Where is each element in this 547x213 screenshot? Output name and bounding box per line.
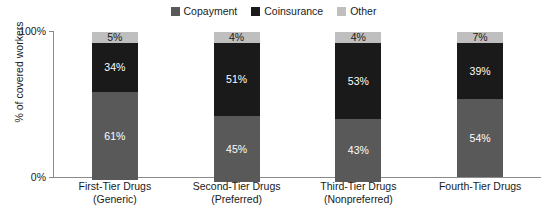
bar-segment-coinsurance[interactable]: 53%	[335, 43, 381, 120]
stacked-bar-chart: Copayment Coinsurance Other 100% 0% % of…	[0, 0, 547, 213]
bar-segment-label: 51%	[226, 74, 247, 85]
legend-swatch-copayment	[171, 7, 180, 16]
stacked-bar: 4% 51% 45%	[214, 32, 260, 177]
bar-segment-copayment[interactable]: 45%	[214, 116, 260, 181]
bar-segment-coinsurance[interactable]: 39%	[457, 43, 503, 100]
bar-segment-label: 7%	[473, 32, 488, 43]
category-name: First-Tier Drugs	[79, 180, 152, 192]
bar-segment-label: 39%	[470, 66, 491, 77]
bar-segment-label: 54%	[470, 133, 491, 144]
bar-segment-label: 53%	[348, 76, 369, 87]
y-axis-tick-bottom	[49, 177, 54, 178]
bar-segment-label: 5%	[107, 32, 122, 43]
stacked-bar: 5% 34% 61%	[92, 32, 138, 177]
legend-item-other: Other	[337, 6, 376, 17]
bar-segment-copayment[interactable]: 54%	[457, 99, 503, 177]
bar-segment-other[interactable]: 7%	[457, 32, 503, 43]
bar-segment-label: 34%	[104, 62, 125, 73]
category-name: Third-Tier Drugs	[320, 180, 396, 192]
x-axis-category-labels: First-Tier Drugs (Generic) Second-Tier D…	[54, 180, 541, 213]
bar-segment-copayment[interactable]: 43%	[335, 119, 381, 181]
bar-group-fourth-tier: 7% 39% 54%	[419, 32, 541, 177]
category-name: Fourth-Tier Drugs	[439, 180, 521, 192]
stacked-bar: 7% 39% 54%	[457, 32, 503, 177]
legend-item-coinsurance: Coinsurance	[251, 6, 323, 17]
legend-label-copayment: Copayment	[184, 6, 238, 17]
bar-group-first-tier: 5% 34% 61%	[54, 32, 176, 177]
bar-segment-label: 4%	[351, 32, 366, 43]
x-axis-label-first-tier: First-Tier Drugs (Generic)	[54, 180, 176, 213]
legend-label-other: Other	[350, 6, 376, 17]
y-axis-tick-label-0: 0%	[2, 172, 46, 183]
bar-segment-copayment[interactable]: 61%	[92, 92, 138, 180]
bar-segment-label: 61%	[104, 131, 125, 142]
legend-label-coinsurance: Coinsurance	[264, 6, 323, 17]
bar-segment-other[interactable]: 5%	[92, 32, 138, 43]
bar-group-third-tier: 4% 53% 43%	[298, 32, 420, 177]
bar-segment-label: 4%	[229, 32, 244, 43]
x-axis-label-second-tier: Second-Tier Drugs (Preferred)	[176, 180, 298, 213]
legend-item-copayment: Copayment	[171, 6, 238, 17]
x-axis-label-third-tier: Third-Tier Drugs (Nonpreferred)	[298, 180, 420, 213]
category-sublabel: (Nonpreferred)	[298, 193, 420, 206]
bar-series-container: 5% 34% 61% 4% 51% 45%	[54, 32, 541, 177]
bar-segment-other[interactable]: 4%	[335, 32, 381, 43]
bar-segment-coinsurance[interactable]: 34%	[92, 43, 138, 92]
category-sublabel: (Generic)	[54, 193, 176, 206]
legend-swatch-coinsurance	[251, 7, 260, 16]
bar-segment-label: 43%	[348, 145, 369, 156]
y-axis-title: % of covered workers	[13, 7, 25, 137]
x-axis-label-fourth-tier: Fourth-Tier Drugs	[419, 180, 541, 213]
category-name: Second-Tier Drugs	[193, 180, 281, 192]
bar-segment-label: 45%	[226, 144, 247, 155]
chart-legend: Copayment Coinsurance Other	[0, 2, 547, 20]
category-sublabel: (Preferred)	[176, 193, 298, 206]
stacked-bar: 4% 53% 43%	[335, 32, 381, 177]
bar-segment-other[interactable]: 4%	[214, 32, 260, 43]
bar-group-second-tier: 4% 51% 45%	[176, 32, 298, 177]
legend-swatch-other	[337, 7, 346, 16]
bar-segment-coinsurance[interactable]: 51%	[214, 43, 260, 117]
